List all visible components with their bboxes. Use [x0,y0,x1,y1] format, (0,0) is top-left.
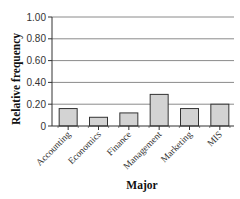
y-tick-label: 1.00 [27,12,47,23]
y-axis-title: Relative frequency [10,33,23,125]
y-tick-label: 0.60 [27,55,47,66]
bar-chart: 00.200.400.600.801.00 AccountingEconomic… [0,0,240,199]
x-tick-label: Marketing [159,129,194,164]
bar-economics [90,117,108,126]
bar-marketing [181,109,199,126]
y-axis-ticks: 00.200.400.600.801.00 [27,12,52,132]
x-axis-ticks: AccountingEconomicsFinanceManagementMark… [34,126,230,171]
bar-accounting [59,109,77,126]
bar-management [150,94,168,126]
y-tick-label: 0.80 [27,33,47,44]
x-tick-label: Accounting [34,129,73,168]
x-tick-label: Finance [105,129,133,157]
y-tick-label: 0.40 [27,77,47,88]
bar-mis [211,104,229,126]
x-tick-label: Economics [66,129,103,166]
gridlines [52,17,234,104]
x-tick-label: MIS [205,129,224,148]
y-tick-label: 0.20 [27,99,47,110]
y-tick-label: 0 [40,121,46,132]
x-axis-title: Major [126,179,157,192]
axes [52,17,234,126]
bar-finance [120,113,138,126]
bars [59,94,229,126]
